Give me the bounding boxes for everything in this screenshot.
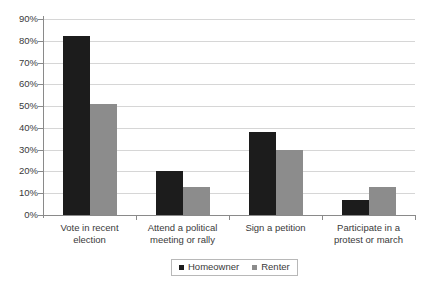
bar-homeowner[interactable]: [249, 132, 276, 215]
bar-renter[interactable]: [90, 104, 117, 215]
legend-label-renter: Renter: [261, 262, 290, 272]
bar-group: [43, 19, 136, 215]
x-axis-tick: [415, 215, 416, 220]
bar-renter[interactable]: [369, 187, 396, 215]
bar-renter[interactable]: [183, 187, 210, 215]
category-label-line: Attend a political: [136, 222, 229, 234]
y-axis-tick-label: 30%: [4, 145, 38, 155]
y-axis-tick-label: 70%: [4, 58, 38, 68]
legend-swatch-icon-homeowner: [179, 265, 184, 270]
category-label: Attend a politicalmeeting or rally: [136, 222, 229, 246]
category-label-line: protest or march: [322, 234, 415, 246]
category-label: Vote in recentelection: [43, 222, 136, 246]
y-axis-tick-label: 10%: [4, 188, 38, 198]
category-label-line: Sign a petition: [229, 222, 322, 234]
category-label-line: Participate in a: [322, 222, 415, 234]
x-axis-tick: [136, 215, 137, 220]
y-axis-labels: 90%80%70%60%50%40%30%20%10%0%: [0, 0, 38, 287]
category-label-line: Vote in recent: [43, 222, 136, 234]
y-axis-tick-label: 80%: [4, 36, 38, 46]
legend-item-homeowner[interactable]: Homeowner: [179, 262, 239, 272]
category-label: Participate in aprotest or march: [322, 222, 415, 246]
y-axis-tick-label: 50%: [4, 101, 38, 111]
bar-homeowner[interactable]: [342, 200, 369, 215]
bar-chart: 90%80%70%60%50%40%30%20%10%0% Vote in re…: [0, 0, 429, 287]
category-label: Sign a petition: [229, 222, 322, 234]
bar-homeowner[interactable]: [63, 36, 90, 215]
bar-renter[interactable]: [276, 150, 303, 215]
bar-group: [136, 19, 229, 215]
category-label-line: election: [43, 234, 136, 246]
legend-label-homeowner: Homeowner: [188, 262, 239, 272]
y-axis-tick-label: 20%: [4, 166, 38, 176]
y-axis-tick: [38, 215, 43, 216]
y-axis-tick-label: 60%: [4, 79, 38, 89]
y-axis-tick-label: 90%: [4, 14, 38, 24]
legend: Homeowner Renter: [171, 259, 298, 276]
x-axis-tick: [322, 215, 323, 220]
legend-item-renter[interactable]: Renter: [252, 262, 290, 272]
y-axis-tick-label: 0%: [4, 210, 38, 220]
bar-group: [322, 19, 415, 215]
bar-group: [229, 19, 322, 215]
category-label-line: meeting or rally: [136, 234, 229, 246]
y-axis-tick-label: 40%: [4, 123, 38, 133]
legend-swatch-icon-renter: [252, 265, 257, 270]
bars-layer: [43, 19, 415, 215]
bar-homeowner[interactable]: [156, 171, 183, 215]
x-axis-tick: [229, 215, 230, 220]
